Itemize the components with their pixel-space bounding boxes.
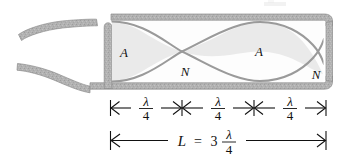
segment-2-denominator: 4 bbox=[215, 108, 222, 123]
total-length-equals: = bbox=[194, 134, 202, 149]
dimension-segment-2: λ 4 bbox=[183, 94, 254, 124]
figure-canvas: A N A N λ 4 bbox=[0, 0, 353, 166]
segment-2-numerator: λ bbox=[214, 94, 221, 109]
segment-3-numerator: λ bbox=[286, 94, 293, 109]
total-length-coefficient: 3 bbox=[211, 134, 218, 149]
node-label-right: N bbox=[311, 67, 322, 82]
total-length-dimension: L = 3 λ 4 bbox=[111, 127, 327, 157]
dimension-segment-3: λ 4 bbox=[255, 94, 327, 124]
page-artifact bbox=[264, 0, 286, 6]
segment-1-numerator: λ bbox=[142, 94, 149, 109]
node-label-middle: N bbox=[180, 64, 191, 79]
total-length-numerator: λ bbox=[225, 127, 232, 142]
standing-wave-figure: A N A N λ 4 bbox=[0, 0, 353, 166]
mouthpiece-flare bbox=[17, 19, 98, 93]
segment-3-denominator: 4 bbox=[287, 108, 294, 123]
dimension-segment-1: λ 4 bbox=[111, 94, 182, 124]
segment-1-denominator: 4 bbox=[143, 108, 150, 123]
antinode-label-left: A bbox=[119, 45, 128, 60]
flare-upper-band bbox=[19, 19, 98, 40]
pipe-closed-end-wall bbox=[326, 21, 333, 82]
quarter-wavelength-dimension-row: λ 4 λ 4 bbox=[111, 94, 327, 124]
pipe-open-end-post bbox=[104, 23, 112, 89]
total-length-symbol: L bbox=[177, 133, 186, 149]
total-length-denominator: 4 bbox=[226, 142, 233, 157]
flare-lower-band bbox=[17, 64, 90, 93]
antinode-label-right: A bbox=[254, 44, 263, 59]
